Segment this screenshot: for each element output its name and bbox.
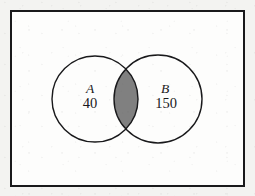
set-a-letter-label: A: [85, 81, 95, 96]
set-b-value-label: 150: [155, 95, 177, 111]
venn-diagram: A 40 B 150: [0, 0, 255, 196]
set-a-value-label: 40: [83, 95, 98, 111]
set-b-letter-label: B: [161, 81, 169, 96]
figure-canvas: A 40 B 150: [0, 0, 255, 196]
